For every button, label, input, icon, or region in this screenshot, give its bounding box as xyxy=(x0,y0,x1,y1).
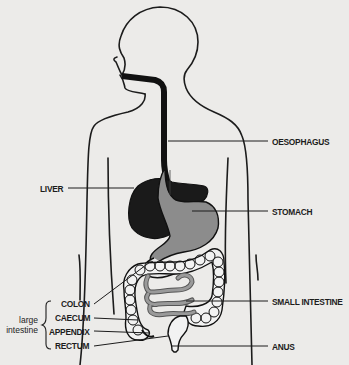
large-intestine-brace xyxy=(42,301,51,349)
label-oesophagus: OESOPHAGUS xyxy=(272,136,329,147)
label-large-intestine: large intestine xyxy=(4,315,38,335)
label-large-intestine-line2: intestine xyxy=(4,325,38,335)
label-colon: COLON xyxy=(61,298,90,309)
label-small-intestine: SMALL INTESTINE xyxy=(272,296,343,307)
label-rectum: RECTUM xyxy=(55,340,89,351)
rectum-shape xyxy=(168,316,188,352)
label-anus: ANUS xyxy=(272,341,295,352)
label-liver: LIVER xyxy=(40,183,63,194)
label-stomach: STOMACH xyxy=(272,206,312,217)
label-caecum: CAECUM xyxy=(55,312,90,323)
label-appendix: APPENDIX xyxy=(49,326,90,337)
